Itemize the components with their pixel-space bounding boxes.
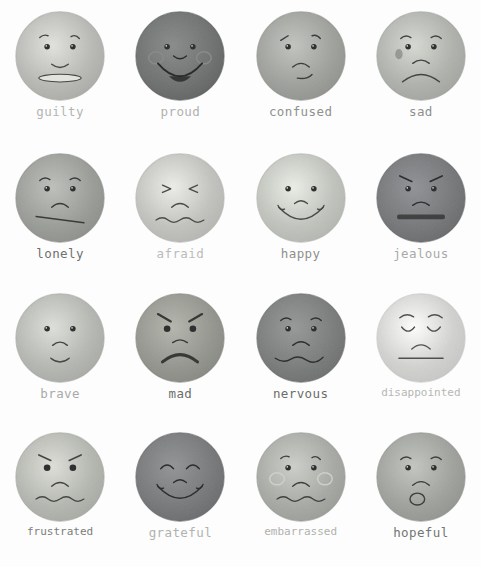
face-cell-frustrated[interactable]: frustrated (0, 427, 120, 567)
face-cell-mad[interactable]: mad (120, 288, 240, 428)
face-label-embarrassed: embarrassed (264, 526, 337, 538)
face-cell-disappointed[interactable]: disappointed (361, 288, 481, 428)
emotion-face-happy-icon (255, 152, 347, 244)
face-cell-guilty[interactable]: guilty (0, 8, 120, 148)
face-label-sad: sad (409, 105, 433, 119)
face-cell-proud[interactable]: proud (120, 8, 240, 148)
face-cell-embarrassed[interactable]: embarrassed (241, 427, 361, 567)
face-cell-brave[interactable]: brave (0, 288, 120, 428)
face-label-confused: confused (269, 105, 332, 119)
emotion-face-sad-icon (375, 10, 467, 102)
face-label-mad: mad (168, 387, 192, 401)
emotion-faces-sheet: guiltyproudconfusedsadlonelyafraidhappyj… (0, 0, 481, 567)
face-cell-afraid[interactable]: afraid (120, 148, 240, 288)
emotion-face-hopeful-icon (375, 431, 467, 523)
emotion-face-grateful-icon (134, 431, 226, 523)
emotion-face-frustrated-icon (14, 431, 106, 523)
face-cell-lonely[interactable]: lonely (0, 148, 120, 288)
emotion-face-disappointed-icon (375, 292, 467, 384)
emotion-face-nervous-icon (255, 292, 347, 384)
face-label-jealous: jealous (393, 247, 448, 261)
face-label-afraid: afraid (157, 247, 205, 261)
emotion-face-afraid-icon (134, 152, 226, 244)
emotion-face-confused-icon (255, 10, 347, 102)
faces-grid: guiltyproudconfusedsadlonelyafraidhappyj… (0, 8, 481, 567)
face-label-frustrated: frustrated (27, 526, 93, 538)
face-cell-hopeful[interactable]: hopeful (361, 427, 481, 567)
face-cell-happy[interactable]: happy (241, 148, 361, 288)
face-label-lonely: lonely (36, 247, 84, 261)
face-label-brave: brave (40, 387, 80, 401)
emotion-face-proud-icon (134, 10, 226, 102)
emotion-face-brave-icon (14, 292, 106, 384)
emotion-face-embarrassed-icon (255, 431, 347, 523)
emotion-face-lonely-icon (14, 152, 106, 244)
face-cell-jealous[interactable]: jealous (361, 148, 481, 288)
emotion-face-guilty-icon (14, 10, 106, 102)
face-label-hopeful: hopeful (393, 526, 448, 540)
face-label-grateful: grateful (149, 526, 212, 540)
face-label-happy: happy (281, 247, 321, 261)
face-cell-grateful[interactable]: grateful (120, 427, 240, 567)
face-cell-sad[interactable]: sad (361, 8, 481, 148)
emotion-face-mad-icon (134, 292, 226, 384)
face-label-proud: proud (161, 105, 201, 119)
face-cell-nervous[interactable]: nervous (241, 288, 361, 428)
face-cell-confused[interactable]: confused (241, 8, 361, 148)
face-label-disappointed: disappointed (381, 387, 460, 399)
emotion-face-jealous-icon (375, 152, 467, 244)
face-label-guilty: guilty (36, 105, 84, 119)
face-label-nervous: nervous (273, 387, 328, 401)
